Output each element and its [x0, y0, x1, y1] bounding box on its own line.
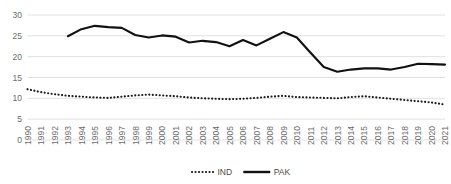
data-series	[28, 26, 446, 105]
x-tick-label: 2016	[373, 126, 383, 145]
x-tick-label: 1997	[117, 126, 127, 145]
gridlines	[28, 15, 446, 140]
x-tick-label: 1994	[77, 126, 87, 145]
x-tick-label: 2014	[346, 126, 356, 145]
x-tick-label: 1991	[36, 126, 46, 145]
x-tick-label: 1990	[23, 126, 33, 145]
x-tick-label: 2012	[319, 126, 329, 145]
x-tick-label: 2007	[252, 126, 262, 145]
y-tick-label: 30	[13, 10, 23, 20]
y-tick-label: 5	[17, 114, 22, 124]
legend-label-ind: IND	[218, 167, 233, 177]
legend-label-pak: PAK	[274, 167, 291, 177]
y-axis-tick-labels: 051015202530	[13, 10, 23, 145]
x-tick-label: 2000	[157, 126, 167, 145]
series-line-pak	[68, 26, 445, 72]
x-tick-label: 2004	[211, 126, 221, 145]
x-tick-label: 2021	[440, 126, 450, 145]
x-tick-label: 2002	[184, 126, 194, 145]
x-tick-label: 2008	[265, 126, 275, 145]
x-tick-label: 2018	[400, 126, 410, 145]
x-tick-label: 2006	[238, 126, 248, 145]
x-tick-label: 2013	[333, 126, 343, 145]
x-tick-label: 1993	[63, 126, 73, 145]
x-tick-label: 2010	[292, 126, 302, 145]
chart-legend: INDPAK	[192, 167, 291, 177]
y-tick-label: 15	[13, 73, 23, 83]
x-tick-label: 1996	[104, 126, 114, 145]
x-tick-label: 2020	[427, 126, 437, 145]
x-tick-label: 1995	[90, 126, 100, 145]
x-tick-label: 2009	[279, 126, 289, 145]
x-axis-tick-labels: 1990199119921993199419951996199719981999…	[23, 126, 451, 145]
y-tick-label: 10	[13, 93, 23, 103]
x-tick-label: 2015	[359, 126, 369, 145]
x-tick-label: 2019	[413, 126, 423, 145]
x-tick-label: 1992	[50, 126, 60, 145]
x-tick-label: 1999	[144, 126, 154, 145]
x-tick-label: 2011	[306, 126, 316, 145]
line-chart: 051015202530 199019911992199319941995199…	[0, 0, 451, 184]
chart-canvas: 051015202530 199019911992199319941995199…	[0, 0, 451, 184]
y-tick-label: 25	[13, 31, 23, 41]
x-tick-label: 2003	[198, 126, 208, 145]
y-tick-label: 0	[17, 135, 22, 145]
x-tick-label: 1998	[131, 126, 141, 145]
x-tick-label: 2001	[171, 126, 181, 145]
x-tick-label: 2005	[225, 126, 235, 145]
y-tick-label: 20	[13, 52, 23, 62]
x-tick-label: 2017	[386, 126, 396, 145]
series-line-ind	[28, 89, 446, 104]
